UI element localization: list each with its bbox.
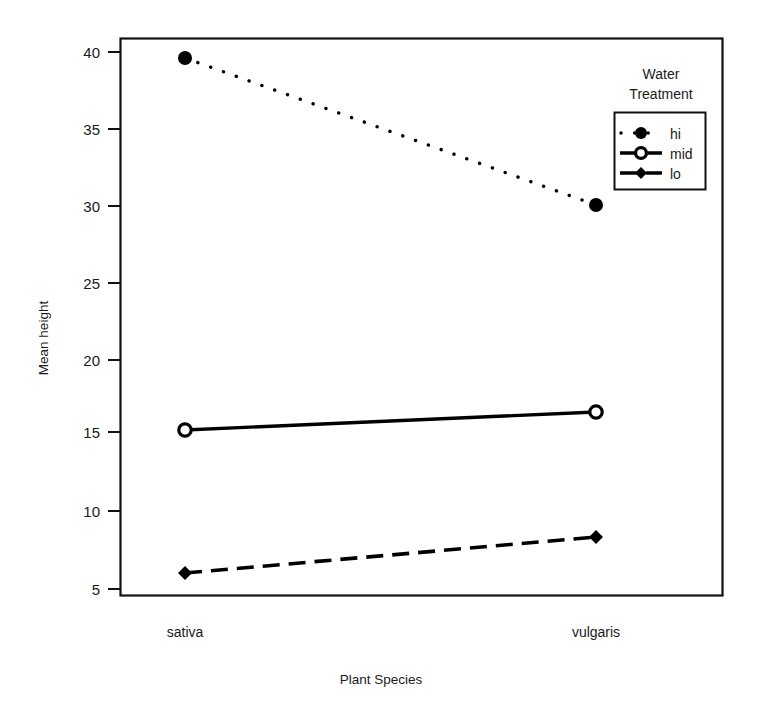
x-axis-title: Plant Species xyxy=(340,672,423,687)
legend-swatch-marker-hi xyxy=(635,127,647,139)
series-mid-line xyxy=(185,412,596,430)
y-tick-label: 15 xyxy=(83,424,100,441)
data-point-lo-sativa xyxy=(178,566,192,580)
y-axis-ticks xyxy=(108,52,121,589)
y-axis-title: Mean height xyxy=(36,301,51,376)
y-axis-tick-labels: 40 35 30 25 20 15 10 5 xyxy=(83,44,100,598)
series-lo-line xyxy=(185,537,596,573)
data-point-hi-vulgaris xyxy=(589,198,603,212)
x-tick-label-vulgaris: vulgaris xyxy=(572,624,620,640)
chart-figure: 40 35 30 25 20 15 10 5 Mean height sativ… xyxy=(0,0,762,708)
series-lo xyxy=(178,530,603,580)
legend-label-hi: hi xyxy=(670,126,681,142)
x-tick-label-sativa: sativa xyxy=(167,624,204,640)
legend-swatch-marker-mid xyxy=(636,148,647,159)
legend-label-mid: mid xyxy=(670,146,693,162)
series-hi xyxy=(178,51,603,212)
y-tick-label: 5 xyxy=(92,581,100,598)
y-tick-label: 35 xyxy=(83,121,100,138)
legend-label-lo: lo xyxy=(670,166,681,182)
y-tick-label: 25 xyxy=(83,275,100,292)
legend-title-line2: Treatment xyxy=(629,86,692,102)
data-point-hi-sativa xyxy=(178,51,192,65)
data-point-mid-vulgaris xyxy=(590,406,602,418)
series-mid xyxy=(179,406,602,436)
data-point-lo-vulgaris xyxy=(589,530,603,544)
y-tick-label: 20 xyxy=(83,352,100,369)
chart-svg: 40 35 30 25 20 15 10 5 Mean height sativ… xyxy=(0,0,762,708)
series-hi-line xyxy=(185,58,596,205)
data-point-mid-sativa xyxy=(179,424,191,436)
legend: Water Treatment hi mid lo xyxy=(615,66,706,190)
y-tick-label: 40 xyxy=(83,44,100,61)
y-tick-label: 30 xyxy=(83,198,100,215)
y-tick-label: 10 xyxy=(83,503,100,520)
legend-title-line1: Water xyxy=(643,66,680,82)
